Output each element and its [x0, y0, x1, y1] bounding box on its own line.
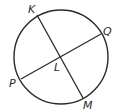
point-label-k: K	[28, 3, 36, 16]
circle-chord-diagram: K Q L P M	[0, 0, 117, 111]
point-label-l: L	[54, 61, 60, 74]
point-label-p: P	[9, 77, 16, 90]
point-label-m: M	[83, 99, 93, 111]
chord-pq	[21, 34, 101, 79]
point-label-q: Q	[103, 25, 112, 38]
